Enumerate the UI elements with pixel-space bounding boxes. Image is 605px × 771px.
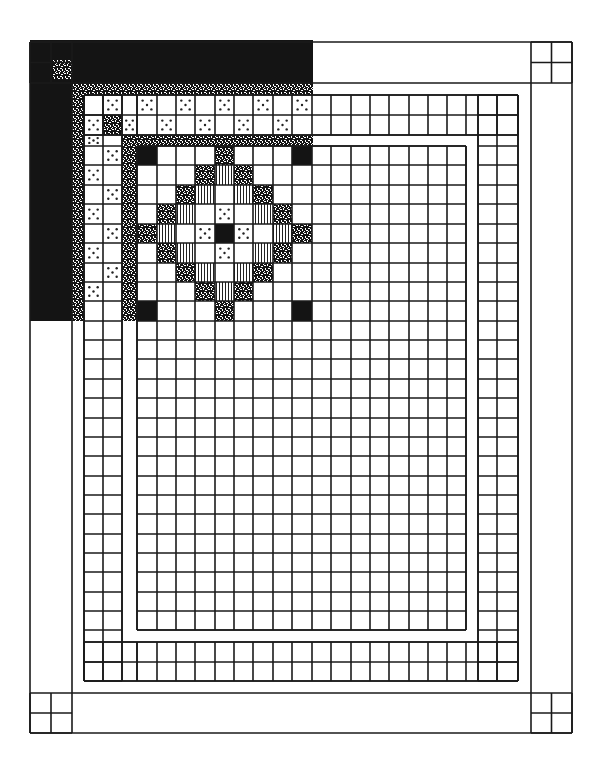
dot-mark — [305, 108, 307, 110]
dot-mark — [115, 158, 117, 160]
dot-mark — [88, 256, 90, 258]
dot-mark — [285, 119, 287, 121]
dot-mark — [96, 286, 98, 288]
dot-mark — [132, 128, 134, 130]
dot-mark — [146, 104, 148, 106]
speckled-sashing-left — [122, 135, 137, 321]
dot-mark — [88, 128, 90, 130]
dot-mark — [161, 119, 163, 121]
dot-mark — [96, 217, 98, 219]
dot-mark — [227, 208, 229, 210]
dot-mark — [115, 267, 117, 269]
dot-mark — [180, 99, 182, 101]
dot-mark — [246, 128, 248, 130]
dot-mark — [184, 104, 186, 106]
dot-mark — [305, 99, 307, 101]
dot-mark — [92, 290, 94, 292]
dot-mark — [257, 99, 259, 101]
dot-mark — [219, 247, 221, 249]
dot-mark — [208, 128, 210, 130]
dot-mark — [88, 208, 90, 210]
dot-mark — [88, 178, 90, 180]
striped-cell — [176, 204, 195, 224]
dot-mark — [111, 271, 113, 273]
dot-mark — [141, 99, 143, 101]
speckled-cell — [234, 165, 253, 185]
speckled-cell — [157, 243, 176, 263]
dot-mark — [266, 108, 268, 110]
dot-mark — [115, 275, 117, 277]
quilt-diagram — [0, 0, 605, 771]
dot-mark — [169, 119, 171, 121]
dot-mark — [96, 142, 98, 144]
dot-mark — [285, 128, 287, 130]
dot-mark — [246, 119, 248, 121]
dot-mark — [92, 174, 94, 176]
striped-cell — [215, 165, 234, 185]
speckled-strip-top — [72, 83, 313, 95]
dot-mark — [161, 128, 163, 130]
dot-mark — [96, 119, 98, 121]
dot-mark — [88, 294, 90, 296]
dot-mark — [111, 193, 113, 195]
dot-mark — [88, 247, 90, 249]
dot-mark — [246, 236, 248, 238]
dot-mark — [92, 213, 94, 215]
dot-mark — [227, 108, 229, 110]
dot-mark — [111, 154, 113, 156]
dot-mark — [199, 236, 201, 238]
dot-mark — [107, 150, 109, 152]
speckled-cell — [176, 263, 195, 282]
speckled-cell — [253, 185, 273, 204]
dot-mark — [107, 158, 109, 160]
speckled-strip-left — [72, 83, 84, 321]
dot-mark — [277, 128, 279, 130]
dot-mark — [96, 169, 98, 171]
dot-mark — [132, 119, 134, 121]
striped-cell — [273, 224, 292, 243]
dot-mark — [88, 137, 90, 139]
dot-mark — [111, 104, 113, 106]
dot-mark — [107, 189, 109, 191]
dot-mark — [88, 286, 90, 288]
speckled-cell — [215, 301, 234, 321]
dot-mark — [204, 124, 206, 126]
striped-cell — [234, 185, 253, 204]
dot-mark — [223, 252, 225, 254]
dot-mark — [208, 228, 210, 230]
dot-mark — [115, 108, 117, 110]
dot-mark — [219, 217, 221, 219]
dot-mark — [115, 150, 117, 152]
speckled-cell — [273, 243, 292, 263]
dot-mark — [208, 119, 210, 121]
dot-mark — [296, 99, 298, 101]
dot-mark — [115, 197, 117, 199]
speckled-cell — [215, 146, 234, 165]
dot-mark — [188, 99, 190, 101]
dot-mark — [227, 217, 229, 219]
dot-mark — [115, 189, 117, 191]
dot-mark — [96, 128, 98, 130]
dot-mark — [115, 228, 117, 230]
dark-cell — [137, 301, 157, 321]
dot-mark — [150, 108, 152, 110]
dot-mark — [96, 137, 98, 139]
speckled-cell — [273, 204, 292, 224]
dot-mark — [238, 236, 240, 238]
dot-mark — [107, 228, 109, 230]
striped-cell — [176, 243, 195, 263]
striped-cell — [195, 185, 215, 204]
dot-mark — [165, 124, 167, 126]
dot-mark — [219, 208, 221, 210]
dot-mark — [262, 104, 264, 106]
dot-mark — [107, 275, 109, 277]
striped-cell — [157, 224, 176, 243]
speckled-cell — [103, 115, 122, 135]
dot-mark — [96, 178, 98, 180]
dot-mark — [238, 119, 240, 121]
striped-cell — [253, 243, 273, 263]
dot-mark — [242, 124, 244, 126]
dot-mark — [219, 108, 221, 110]
dot-mark — [115, 99, 117, 101]
dot-mark — [141, 108, 143, 110]
